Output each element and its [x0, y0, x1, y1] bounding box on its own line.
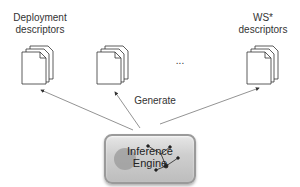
- label-line: Deployment: [5, 12, 75, 24]
- label-line: WS*: [228, 12, 298, 24]
- document-stack-icon: [22, 46, 53, 84]
- inference-engine-box: Inference Engine: [104, 134, 196, 184]
- generate-label: Generate: [130, 95, 180, 107]
- arrow-to-deployment: [41, 90, 133, 130]
- engine-label-line: Inference: [106, 145, 194, 157]
- document-stack-icon: [97, 46, 128, 84]
- engine-label: Inference Engine: [106, 145, 194, 169]
- engine-label-line: Engine: [106, 157, 194, 169]
- label-line: descriptors: [5, 24, 75, 36]
- ws-descriptors-label: WS* descriptors: [228, 12, 298, 36]
- document-stack-icon: [247, 46, 278, 84]
- label-line: descriptors: [228, 24, 298, 36]
- ellipsis: ...: [165, 55, 195, 67]
- deployment-descriptors-label: Deployment descriptors: [5, 12, 75, 36]
